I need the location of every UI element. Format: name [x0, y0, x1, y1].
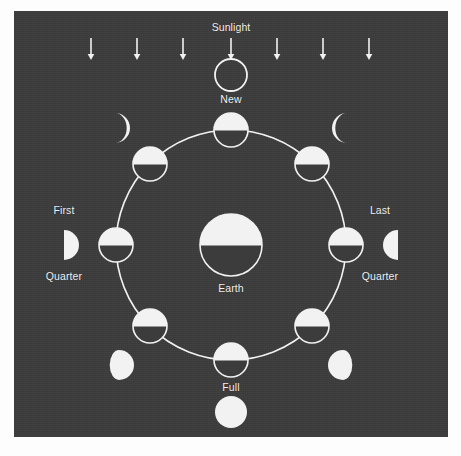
label-sunlight: Sunlight [212, 21, 251, 33]
sunlight-arrow-group [88, 38, 373, 60]
label-new: New [220, 93, 241, 105]
phase-icon-waning-gibbous [328, 350, 352, 380]
sunlight-arrow-icon [228, 38, 235, 60]
orbit-moon-full [214, 343, 248, 377]
earth-body [200, 214, 262, 276]
label-last-quarter: Quarter [362, 270, 398, 282]
phase-icon-first-quarter [64, 230, 79, 260]
label-full: Full [222, 381, 239, 393]
orbit-moon-new [214, 113, 248, 147]
phase-icon-new [215, 59, 247, 91]
sunlight-arrow-icon [274, 38, 281, 60]
label-first: First [54, 204, 75, 216]
sunlight-arrow-icon [88, 38, 95, 60]
sunlight-arrow-icon [366, 38, 373, 60]
diagram-canvas [14, 11, 448, 437]
phase-icon-waxing-crescent [115, 113, 130, 143]
orbit-moon-waning-gibbous [295, 309, 329, 343]
sunlight-arrow-icon [180, 38, 187, 60]
sunlight-arrow-icon [134, 38, 141, 60]
orbit-moon-last-quarter [329, 228, 363, 262]
orbit-moon-first-quarter [99, 228, 133, 262]
moon-phase-diagram: Sunlight New First Quarter Last Quarter … [0, 0, 461, 456]
label-earth: Earth [218, 282, 244, 294]
diagram-panel: Sunlight New First Quarter Last Quarter … [14, 11, 448, 437]
orbit-moon-waning-crescent [295, 147, 329, 181]
orbit-moon-waxing-gibbous [133, 309, 167, 343]
earth-group [200, 214, 262, 276]
phase-icon-waxing-gibbous [110, 350, 134, 380]
label-last: Last [370, 204, 390, 216]
phase-icon-full [215, 396, 247, 428]
label-first-quarter: Quarter [46, 270, 82, 282]
orbit-moon-waxing-crescent [133, 147, 167, 181]
phase-icon-last-quarter [383, 230, 398, 260]
sunlight-arrow-icon [320, 38, 327, 60]
phase-icon-waning-crescent [332, 113, 347, 143]
